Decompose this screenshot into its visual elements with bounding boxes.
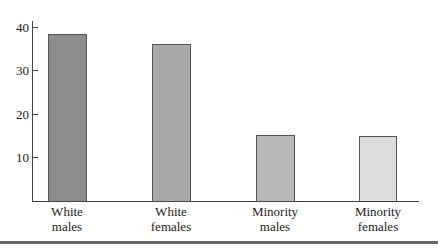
category-label-line: Minority — [235, 204, 315, 219]
y-tick-label-30: 30 — [2, 64, 29, 77]
category-label-minority-females: Minority females — [338, 204, 418, 234]
y-axis — [32, 21, 33, 202]
category-label-line: Minority — [338, 204, 418, 219]
category-label-minority-males: Minority males — [235, 204, 315, 234]
category-label-line: females — [131, 219, 211, 234]
bar-white-males — [48, 34, 87, 201]
y-tick-20 — [33, 114, 38, 115]
y-tick-label-40: 40 — [2, 21, 29, 34]
bar-minority-females — [359, 136, 397, 201]
category-label-white-males: White males — [27, 204, 107, 234]
category-label-line: males — [235, 219, 315, 234]
bar-white-females — [152, 44, 191, 201]
y-tick-10 — [33, 157, 38, 158]
category-label-line: females — [338, 219, 418, 234]
category-label-line: White — [131, 204, 211, 219]
bottom-rule — [0, 241, 438, 244]
bar-chart: 10 20 30 40 White males White females Mi… — [0, 0, 438, 251]
y-tick-40 — [33, 27, 38, 28]
category-label-line: males — [27, 219, 107, 234]
y-tick-label-10: 10 — [2, 151, 29, 164]
y-tick-label-20: 20 — [2, 108, 29, 121]
bar-minority-males — [256, 135, 295, 201]
y-tick-30 — [33, 70, 38, 71]
x-axis — [32, 201, 419, 202]
category-label-line: White — [27, 204, 107, 219]
category-label-white-females: White females — [131, 204, 211, 234]
